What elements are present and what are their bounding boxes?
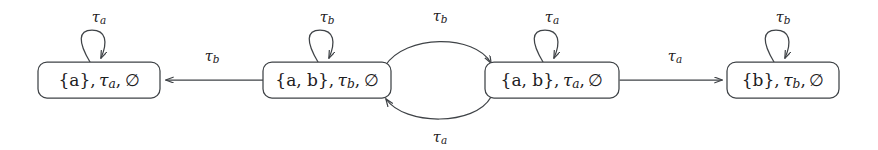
self-loop-n2: τb <box>309 9 334 62</box>
state-node-n2[interactable]: {a, b}, τb, ∅ <box>263 62 391 98</box>
self-loop-n1-label: τa <box>92 9 106 26</box>
edge-n2-to-n1: τb <box>166 48 263 80</box>
edge-n3-to-n2-label: τa <box>433 129 447 146</box>
state-node-n3-label: {a, b}, τa, ∅ <box>501 70 604 91</box>
automaton-canvas: τb τb τa τa τa τb τa <box>0 0 878 150</box>
self-loop-n2-label: τb <box>320 9 335 26</box>
state-node-n4-label: {b}, τb, ∅ <box>742 70 824 91</box>
edge-n3-to-n4-label: τa <box>668 48 682 65</box>
self-loop-n3-label: τa <box>545 9 559 26</box>
state-transition-diagram: τb τb τa τa τa τb τa <box>0 0 878 150</box>
self-loop-n3: τa <box>534 9 559 62</box>
state-node-n1-label: {a}, τa, ∅ <box>58 70 139 91</box>
self-loop-n3-path <box>534 30 558 62</box>
state-node-n1[interactable]: {a}, τa, ∅ <box>38 62 160 98</box>
state-node-n3[interactable]: {a, b}, τa, ∅ <box>485 62 619 98</box>
edge-n3-to-n2: τa <box>386 97 491 146</box>
self-loop-n4-path <box>765 30 789 62</box>
state-node-n2-label: {a, b}, τb, ∅ <box>275 70 378 91</box>
edge-n3-to-n4: τa <box>620 48 722 80</box>
edge-n3-to-n2-path <box>386 97 491 119</box>
edge-n2-to-n1-label: τb <box>205 48 220 65</box>
self-loop-n1-path <box>81 30 105 62</box>
edge-n2-to-n3-path <box>385 42 491 66</box>
state-node-n4[interactable]: {b}, τb, ∅ <box>727 62 839 98</box>
edge-n2-to-n3: τb <box>385 8 491 66</box>
edge-n2-to-n3-label: τb <box>433 8 448 25</box>
self-loop-n1: τa <box>81 9 106 62</box>
self-loop-n2-path <box>309 30 333 62</box>
self-loop-n4: τb <box>765 9 790 62</box>
self-loop-n4-label: τb <box>776 9 791 26</box>
